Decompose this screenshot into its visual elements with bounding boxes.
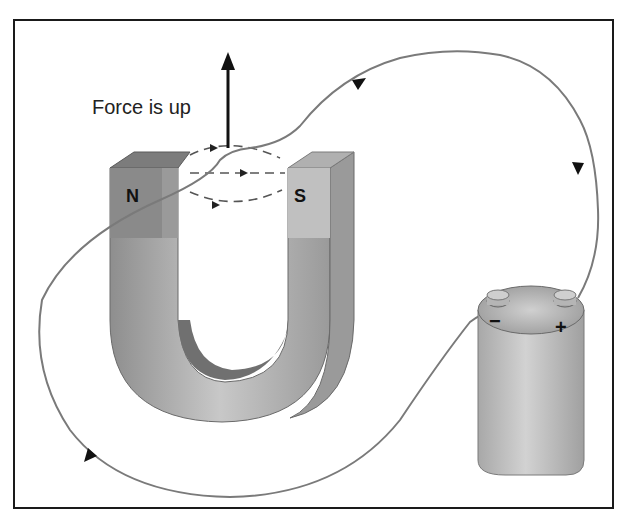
horseshoe-magnet: N S	[110, 152, 354, 422]
force-label: Force is up	[92, 96, 191, 118]
positive-terminal	[554, 290, 576, 307]
force-arrow	[221, 52, 235, 148]
positive-sign: +	[555, 316, 567, 338]
negative-sign: −	[489, 310, 501, 332]
negative-terminal	[487, 290, 509, 307]
diagram-canvas: N S Force is up	[0, 0, 621, 529]
north-pole-label: N	[126, 186, 139, 206]
magnetic-field-lines	[190, 146, 285, 202]
battery: − +	[478, 286, 584, 475]
south-pole-label: S	[294, 186, 306, 206]
